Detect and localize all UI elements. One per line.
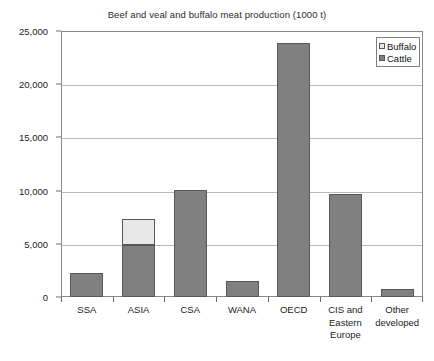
x-axis-ticks — [61, 297, 423, 302]
x-category-label-line: Europe — [320, 329, 372, 342]
y-tick-label: 5,000 — [24, 238, 48, 249]
chart-container: Beef and veal and buffalo meat productio… — [0, 0, 434, 361]
y-tick-label: 20,000 — [19, 79, 48, 90]
x-tick-mark — [268, 297, 269, 302]
x-axis-labels: SSAASIACSAWANAOECDCIS andEasternEuropeOt… — [61, 304, 423, 360]
x-category-label: SSA — [61, 304, 113, 317]
x-category-label-line: Eastern — [320, 317, 372, 330]
bar-segment-buffalo — [122, 219, 155, 245]
x-category-label: CSA — [164, 304, 216, 317]
x-tick-mark — [320, 297, 321, 302]
bar-segment-cattle — [174, 190, 207, 297]
x-category-label-line: CIS and — [320, 304, 372, 317]
x-tick-mark — [422, 297, 423, 302]
bar-group — [381, 31, 414, 297]
bar-group — [174, 31, 207, 297]
legend-item: Cattle — [379, 52, 416, 64]
x-category-label-line: WANA — [216, 304, 268, 317]
x-tick-mark — [371, 297, 372, 302]
legend-label: Cattle — [387, 53, 412, 64]
x-category-label-line: developed — [371, 317, 423, 330]
x-category-label: Otherdeveloped — [371, 304, 423, 329]
y-tick-label: 10,000 — [19, 185, 48, 196]
x-category-label-line: OECD — [268, 304, 320, 317]
bar-segment-cattle — [226, 281, 259, 297]
bar-group — [226, 31, 259, 297]
legend-label: Buffalo — [387, 41, 416, 52]
x-category-label-line: ASIA — [113, 304, 165, 317]
y-tick-label: 15,000 — [19, 132, 48, 143]
legend: BuffaloCattle — [376, 37, 420, 67]
bar-segment-cattle — [381, 289, 414, 298]
bar-group — [277, 31, 310, 297]
y-axis: 05,00010,00015,00020,00025,000 — [0, 31, 56, 297]
bars-layer — [61, 31, 423, 297]
x-category-label: CIS andEasternEurope — [320, 304, 372, 342]
x-tick-mark — [61, 297, 62, 302]
bar-group — [329, 31, 362, 297]
bar-segment-cattle — [122, 245, 155, 297]
legend-swatch-icon — [379, 43, 385, 49]
x-category-label: WANA — [216, 304, 268, 317]
legend-swatch-icon — [379, 55, 385, 61]
x-category-label-line: SSA — [61, 304, 113, 317]
x-category-label: OECD — [268, 304, 320, 317]
chart-title: Beef and veal and buffalo meat productio… — [0, 9, 434, 20]
legend-item: Buffalo — [379, 40, 416, 52]
x-category-label: ASIA — [113, 304, 165, 317]
bar-segment-cattle — [277, 43, 310, 297]
x-tick-mark — [113, 297, 114, 302]
y-tick-label: 25,000 — [19, 26, 48, 37]
bar-segment-cattle — [329, 194, 362, 297]
x-category-label-line: CSA — [164, 304, 216, 317]
bar-group — [122, 31, 155, 297]
y-tick-label: 0 — [43, 292, 48, 303]
x-category-label-line: Other — [371, 304, 423, 317]
x-tick-mark — [216, 297, 217, 302]
bar-group — [70, 31, 103, 297]
x-tick-mark — [164, 297, 165, 302]
bar-segment-cattle — [70, 273, 103, 297]
